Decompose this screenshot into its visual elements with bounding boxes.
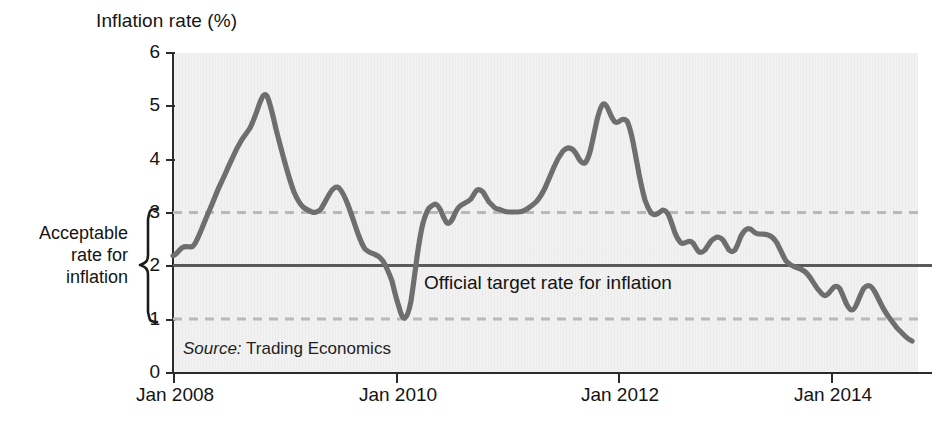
source-caption: Source: Trading Economics	[183, 339, 391, 359]
acceptable-range-brace	[140, 209, 157, 322]
official-target-label: Official target rate for inflation	[424, 272, 672, 294]
chart-graphics	[0, 0, 939, 424]
inflation-rate-line	[173, 95, 912, 341]
source-value: Trading Economics	[246, 339, 391, 358]
source-prefix: Source:	[183, 339, 242, 358]
chart-figure: Inflation rate (%) 6 5 4 3 2 1 0 Jan 200…	[0, 0, 939, 424]
